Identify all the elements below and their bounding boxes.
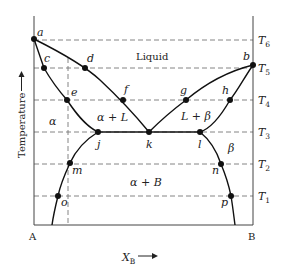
label-k: k — [146, 138, 153, 151]
label-l: l — [198, 138, 202, 151]
label-b: b — [243, 50, 250, 63]
label-t6: T6 — [258, 34, 270, 49]
point-l — [197, 129, 203, 135]
x-axis-label: XB — [121, 251, 136, 266]
axes — [34, 16, 253, 225]
region-l-plus-beta: L + β — [180, 110, 211, 123]
label-o: o — [61, 196, 68, 209]
point-b — [250, 62, 256, 68]
label-h: h — [222, 84, 229, 97]
y-axis-arrow-icon — [19, 71, 25, 77]
label-component-a: A — [28, 231, 37, 242]
solvus-left — [52, 132, 98, 225]
label-f: f — [123, 83, 130, 96]
label-t5: T5 — [258, 62, 270, 77]
region-beta: β — [227, 142, 234, 155]
label-p: p — [221, 196, 228, 209]
label-t3: T3 — [258, 126, 270, 141]
region-alpha-plus-b: α + B — [130, 176, 162, 189]
label-g: g — [180, 84, 187, 97]
label-n: n — [212, 164, 219, 177]
point-p — [228, 193, 234, 199]
region-alpha-plus-l: α + L — [97, 111, 128, 124]
label-m: m — [72, 164, 82, 177]
label-component-b: B — [248, 231, 255, 242]
phase-diagram: a b c d e f g h j k l m n o p Liquid α α… — [0, 0, 281, 268]
label-j: j — [94, 138, 101, 151]
point-c — [41, 65, 47, 71]
point-k — [146, 129, 152, 135]
label-t2: T2 — [258, 158, 270, 173]
x-axis-arrow-icon — [152, 253, 158, 259]
label-t1: T1 — [258, 190, 270, 205]
label-t4: T4 — [258, 94, 270, 109]
point-d — [82, 65, 88, 71]
label-e: e — [71, 86, 78, 99]
label-a: a — [37, 26, 44, 39]
label-d: d — [87, 52, 94, 65]
temperature-labels: T6 T5 T4 T3 T2 T1 — [258, 34, 270, 205]
point-h — [227, 97, 233, 103]
y-axis-label-group: Temperature — [16, 71, 27, 158]
point-f — [120, 97, 126, 103]
region-liquid: Liquid — [136, 51, 169, 62]
region-alpha: α — [49, 115, 57, 128]
point-j — [95, 129, 101, 135]
label-c: c — [44, 52, 50, 65]
y-axis-label: Temperature — [16, 92, 27, 158]
point-g — [183, 97, 189, 103]
point-e — [64, 97, 70, 103]
